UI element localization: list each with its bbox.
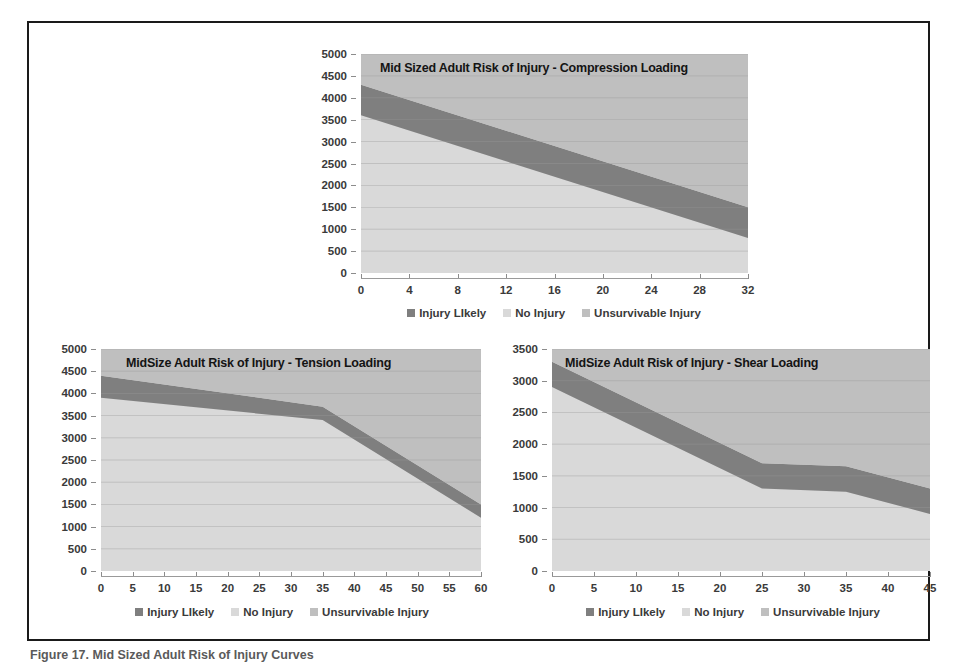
y-tick-mark [91,482,96,483]
legend-item: No Injury [231,606,293,618]
legend-label: Injury LIkely [598,606,665,618]
x-tick-mark [748,274,749,279]
x-tick-label: 0 [549,582,555,594]
legend-item: Unsurvivable Injury [761,606,880,618]
x-tick-label: 28 [693,284,706,296]
y-tick-mark [91,349,96,350]
x-axis-labels: 051015202530354045 [552,577,930,595]
area-bands [361,54,748,273]
x-tick-label: 35 [316,582,329,594]
x-tick-label: 30 [798,582,811,594]
y-tick-mark [351,229,356,230]
x-tick-label: 10 [158,582,171,594]
legend-item: Injury LIkely [586,606,665,618]
y-tick-mark [91,527,96,528]
x-tick-label: 5 [129,582,135,594]
legend-item: Injury LIkely [407,307,486,319]
chart-legend: Injury LIkelyNo InjuryUnsurvivable Injur… [72,606,492,618]
y-tick-mark [91,393,96,394]
y-axis-labels: 0500100015002000250030003500400045005000 [49,349,96,571]
chart-title: MidSize Adult Risk of Injury - Tension L… [126,356,391,370]
x-tick-label: 20 [596,284,609,296]
y-axis-labels: 0500100015002000250030003500400045005000 [309,54,356,273]
legend-label: Injury LIkely [419,307,486,319]
y-tick-mark [542,571,547,572]
x-tick-label: 32 [742,284,755,296]
legend-label: No Injury [515,307,565,319]
chart-title: Mid Sized Adult Risk of Injury - Compres… [380,61,688,75]
legend-label: Unsurvivable Injury [773,606,880,618]
y-tick-mark [542,508,547,509]
x-tick-label: 15 [672,582,685,594]
legend-swatch-icon [503,309,511,317]
y-tick-mark [542,539,547,540]
x-tick-label: 50 [411,582,424,594]
x-tick-label: 4 [406,284,412,296]
chart-compression-loading: 0500100015002000250030003500400045005000… [274,29,774,329]
y-tick-mark [91,504,96,505]
y-tick-mark [351,54,356,55]
x-tick-label: 25 [253,582,266,594]
legend-swatch-icon [231,608,239,616]
x-tick-mark [481,572,482,577]
y-tick-mark [351,185,356,186]
legend-item: Injury LIkely [135,606,214,618]
legend-label: Unsurvivable Injury [322,606,429,618]
y-tick-mark [542,349,547,350]
x-tick-label: 24 [645,284,658,296]
y-tick-mark [542,444,547,445]
legend-swatch-icon [310,608,318,616]
x-axis-line [552,576,930,577]
legend-swatch-icon [586,608,594,616]
legend-label: Unsurvivable Injury [594,307,701,319]
x-tick-label: 30 [285,582,298,594]
x-tick-label: 55 [443,582,456,594]
legend-item: No Injury [682,606,744,618]
figure-caption: Figure 17. Mid Sized Adult Risk of Injur… [30,648,930,667]
y-tick-mark [542,381,547,382]
x-tick-mark [930,572,931,577]
x-tick-label: 35 [840,582,853,594]
x-axis-labels: 048121620242832 [361,279,748,297]
x-tick-label: 0 [358,284,364,296]
legend-label: No Injury [694,606,744,618]
y-tick-mark [351,273,356,274]
y-tick-mark [351,120,356,121]
x-tick-label: 40 [348,582,361,594]
x-tick-label: 10 [630,582,643,594]
y-tick-mark [351,142,356,143]
legend-swatch-icon [761,608,769,616]
x-tick-label: 60 [475,582,488,594]
x-tick-label: 16 [548,284,561,296]
plot-area [361,54,748,273]
chart-legend: Injury LIkelyNo InjuryUnsurvivable Injur… [329,307,779,319]
area-bands [552,349,930,571]
y-tick-mark [542,412,547,413]
legend-item: No Injury [503,307,565,319]
legend-item: Unsurvivable Injury [310,606,429,618]
x-tick-label: 20 [221,582,234,594]
x-axis-labels: 051015202530354045505560 [101,577,481,595]
plot-area [101,349,481,571]
x-tick-label: 20 [714,582,727,594]
x-tick-label: 15 [190,582,203,594]
x-tick-label: 45 [924,582,937,594]
chart-legend: Injury LIkelyNo InjuryUnsurvivable Injur… [523,606,943,618]
x-tick-label: 45 [380,582,393,594]
y-tick-mark [91,371,96,372]
legend-swatch-icon [582,309,590,317]
chart-title: MidSize Adult Risk of Injury - Shear Loa… [565,356,818,370]
legend-item: Unsurvivable Injury [582,307,701,319]
legend-label: No Injury [243,606,293,618]
x-tick-label: 8 [455,284,461,296]
x-tick-label: 40 [882,582,895,594]
x-axis-line [101,576,481,577]
area-bands [101,349,481,571]
chart-shear-loading: 0500100015002000250030003500 MidSize Adu… [488,325,958,640]
y-tick-mark [91,416,96,417]
legend-swatch-icon [407,309,415,317]
x-tick-label: 25 [756,582,769,594]
legend-swatch-icon [682,608,690,616]
y-tick-mark [351,98,356,99]
x-tick-label: 12 [500,284,513,296]
